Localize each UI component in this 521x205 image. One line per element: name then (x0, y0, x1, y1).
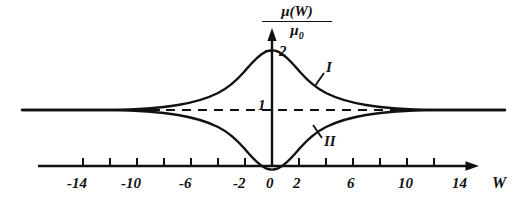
y-tick-label-2: 2 (279, 44, 287, 59)
curve-II-leader (313, 125, 322, 138)
curve-II (22, 110, 505, 170)
y-axis-title-denominator-base: μ (290, 22, 298, 38)
x-tick-label--6: -6 (179, 176, 192, 191)
y-axis-title-numerator: μ(W) (262, 4, 332, 22)
x-tick-label-6: 6 (347, 176, 355, 191)
x-tick-label-2: 2 (293, 176, 301, 191)
x-tick-label-14: 14 (452, 176, 467, 191)
curve-I-leader (315, 73, 324, 86)
curve-label-I: I (326, 60, 332, 75)
x-tick-label-0: 0 (266, 176, 274, 191)
y-axis-title-denominator: μ0 (262, 22, 332, 42)
y-axis-title-denominator-subscript: 0 (299, 30, 304, 41)
x-axis-name: W (492, 175, 506, 191)
y-tick-label-1: 1 (258, 98, 266, 113)
x-tick-label--10: -10 (121, 176, 141, 191)
y-axis (267, 28, 276, 166)
x-tick-label-10: 10 (398, 176, 413, 191)
x-tick-label--2: -2 (233, 176, 246, 191)
figure-canvas: μ(W) μ0 2 1 -14 -10 -6 -2 0 2 6 10 14 W … (0, 0, 521, 205)
x-tick-label--14: -14 (67, 176, 87, 191)
y-axis-title: μ(W) μ0 (262, 4, 332, 41)
curve-label-II: II (324, 134, 336, 149)
